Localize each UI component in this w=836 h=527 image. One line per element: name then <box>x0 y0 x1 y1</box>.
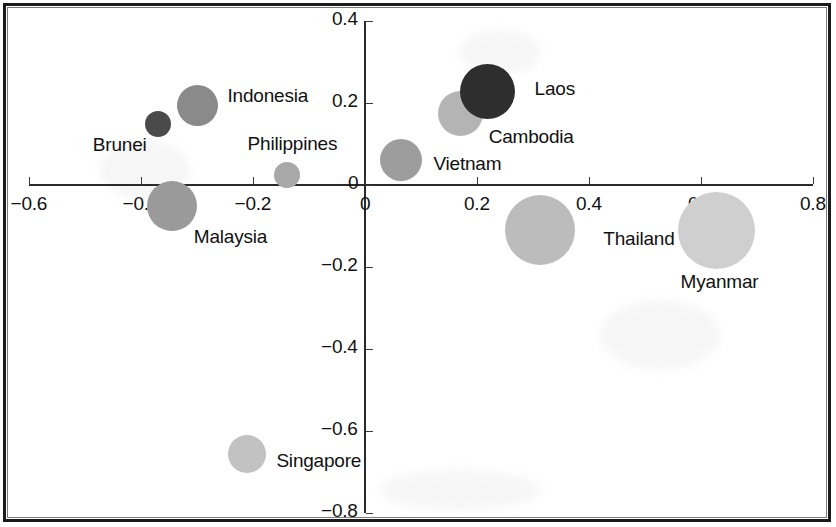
point-label-philippines: Philippines <box>248 133 338 155</box>
y-axis-tick-label: −0.2 <box>321 254 358 276</box>
x-axis-tick <box>701 177 702 184</box>
point-label-thailand: Thailand <box>603 228 674 250</box>
bubble-thailand[interactable] <box>505 195 575 265</box>
y-axis-tick-label: −0.8 <box>321 500 358 522</box>
point-label-vietnam: Vietnam <box>433 153 501 175</box>
x-axis-tick-label: 0.2 <box>464 193 490 215</box>
y-axis-tick <box>366 431 373 432</box>
y-axis-tick <box>366 349 373 350</box>
x-axis-tick <box>365 177 366 184</box>
bubble-singapore[interactable] <box>228 435 266 473</box>
bubble-malaysia[interactable] <box>147 181 197 231</box>
x-axis-tick-label: 0 <box>360 193 370 215</box>
y-axis-tick-label: 0.2 <box>332 90 358 112</box>
bubble-chart-figure: −0.6−0.4−0.200.20.40.60.80.40.20−0.2−0.4… <box>0 0 836 527</box>
bubble-indonesia[interactable] <box>177 85 218 126</box>
x-axis-tick <box>141 177 142 184</box>
point-label-cambodia: Cambodia <box>489 126 574 148</box>
point-label-laos: Laos <box>535 78 575 100</box>
x-axis-tick <box>589 177 590 184</box>
bubble-myanmar[interactable] <box>678 192 755 269</box>
plot-area: −0.6−0.4−0.200.20.40.60.80.40.20−0.2−0.4… <box>0 0 836 527</box>
bubble-laos[interactable] <box>460 64 515 119</box>
point-label-singapore: Singapore <box>276 450 361 472</box>
x-axis-tick <box>253 177 254 184</box>
point-label-malaysia: Malaysia <box>194 226 267 248</box>
x-axis-tick <box>813 177 814 184</box>
bubble-brunei[interactable] <box>145 111 171 137</box>
x-axis-tick-label: −0.2 <box>235 193 272 215</box>
bubble-vietnam[interactable] <box>380 139 422 181</box>
y-axis-tick-label: −0.4 <box>321 336 358 358</box>
x-axis-tick-label: −0.6 <box>11 193 48 215</box>
point-label-myanmar: Myanmar <box>681 271 759 293</box>
y-axis-tick <box>366 267 373 268</box>
x-axis-tick-label: 0.8 <box>800 193 826 215</box>
y-axis-tick-label: 0.4 <box>332 8 358 30</box>
point-label-indonesia: Indonesia <box>228 85 309 107</box>
point-label-brunei: Brunei <box>93 134 147 156</box>
y-axis-tick-label: 0 <box>348 172 358 194</box>
y-axis-tick <box>366 513 373 514</box>
y-axis-tick <box>366 185 373 186</box>
y-axis-tick <box>366 21 373 22</box>
x-axis-tick <box>29 177 30 184</box>
y-axis-tick-label: −0.6 <box>321 418 358 440</box>
x-axis-line <box>29 184 813 186</box>
y-axis-tick <box>366 103 373 104</box>
x-axis-tick-label: 0.4 <box>576 193 602 215</box>
bubble-philippines[interactable] <box>274 162 300 188</box>
x-axis-tick <box>477 177 478 184</box>
